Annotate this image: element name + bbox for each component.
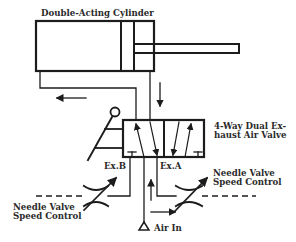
lever-actuator bbox=[88, 108, 123, 161]
needle-valve-left-icon bbox=[84, 178, 116, 210]
diagram-canvas: Double-Acting Cylinder 4-Way Dual Ex bbox=[0, 0, 296, 242]
exhaust-a-label: Ex.A bbox=[160, 161, 182, 171]
pneumatic-circuit-diagram: Double-Acting Cylinder 4-Way Dual Ex bbox=[0, 0, 296, 242]
double-acting-cylinder bbox=[36, 21, 239, 71]
exhaust-b-label: Ex.B bbox=[104, 161, 126, 171]
cylinder-title: Double-Acting Cylinder bbox=[41, 8, 154, 18]
piston-rod bbox=[134, 44, 239, 53]
four-way-valve bbox=[123, 120, 204, 157]
valve-label-2: haust Air Valve bbox=[214, 130, 287, 140]
needle-left-label-2: Speed Control bbox=[13, 211, 82, 221]
needle-right-label-2: Speed Control bbox=[213, 177, 282, 187]
air-source-triangle-icon bbox=[139, 222, 149, 230]
air-in-label: Air In bbox=[153, 223, 182, 233]
lever-knob-icon bbox=[111, 108, 120, 117]
needle-valve-right-icon bbox=[175, 178, 207, 211]
port-line-b bbox=[40, 71, 136, 119]
